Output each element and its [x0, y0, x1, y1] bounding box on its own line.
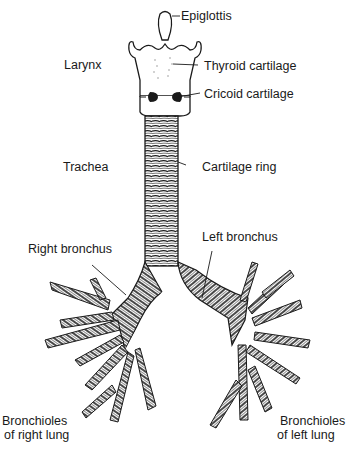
- label-bronchioles-right-1: Bronchioles: [2, 414, 67, 428]
- label-bronchioles-left-2: of left lung: [277, 428, 335, 442]
- label-epiglottis: Epiglottis: [181, 9, 232, 23]
- label-right-bronchus: Right bronchus: [28, 242, 112, 256]
- label-thyroid-cartilage: Thyroid cartilage: [204, 59, 296, 73]
- left-bronchioles: [210, 262, 310, 428]
- label-bronchioles-right-2: of right lung: [4, 428, 69, 442]
- label-larynx: Larynx: [64, 58, 102, 72]
- label-bronchioles-left-1: Bronchioles: [280, 414, 345, 428]
- trachea-shape: [145, 116, 178, 266]
- label-cricoid-cartilage: Cricoid cartilage: [204, 87, 294, 101]
- airway-diagram: [0, 0, 358, 451]
- cricoid-cartilage-shape: [140, 96, 190, 116]
- thyroid-cartilage-shape: [129, 42, 201, 96]
- label-left-bronchus: Left bronchus: [202, 230, 278, 244]
- label-trachea: Trachea: [63, 160, 108, 174]
- epiglottis-shape: [158, 12, 171, 41]
- label-cartilage-ring: Cartilage ring: [202, 160, 276, 174]
